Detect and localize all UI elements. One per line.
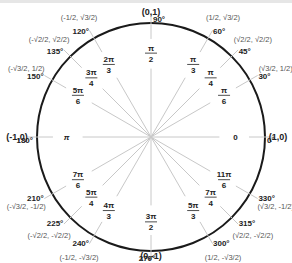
svg-text:(-√3/2, 1/2): (-√3/2, 1/2)	[8, 64, 45, 73]
svg-text:5π: 5π	[73, 86, 84, 95]
radian-label-45: π4	[205, 68, 217, 88]
radian-label-225: 5π4	[85, 188, 97, 208]
radian-label-150: 5π6	[72, 86, 84, 106]
radian-label-210: 7π6	[72, 170, 84, 190]
coordinate-label-135: (-√2/2, √2/2)	[29, 35, 70, 44]
svg-text:(-1/2, -√3/2): (-1/2, -√3/2)	[59, 253, 99, 262]
svg-text:4: 4	[208, 199, 213, 208]
radian-label-135: 3π4	[85, 68, 97, 88]
degree-label-225: 225°	[47, 219, 64, 228]
svg-text:7π: 7π	[73, 170, 84, 179]
svg-text:2π: 2π	[104, 55, 115, 64]
coordinate-label-150: (-√3/2, 1/2)	[8, 64, 45, 73]
svg-text:(1/2, -√3/2): (1/2, -√3/2)	[205, 253, 242, 262]
svg-text:(-1/2, √3/2): (-1/2, √3/2)	[61, 13, 98, 22]
tick-240	[89, 222, 102, 244]
svg-text:(-√2/2, √2/2): (-√2/2, √2/2)	[29, 35, 70, 44]
coordinate-label-300: (1/2, -√3/2)	[205, 253, 242, 262]
svg-text:11π: 11π	[217, 170, 232, 179]
coordinate-label-210: (-√3/2, -1/2)	[7, 202, 47, 211]
tick-330	[236, 186, 258, 199]
radian-label-60: π3	[187, 55, 199, 75]
tick-45	[220, 50, 238, 68]
tick-300	[200, 222, 213, 244]
svg-text:3: 3	[191, 212, 196, 221]
svg-text:(1/2, √3/2): (1/2, √3/2)	[206, 13, 241, 22]
coordinate-label-120: (-1/2, √3/2)	[61, 13, 98, 22]
svg-text:3: 3	[191, 66, 196, 75]
svg-text:2: 2	[149, 223, 154, 232]
svg-text:2: 2	[149, 55, 154, 64]
svg-text:3π: 3π	[146, 212, 157, 221]
coordinate-label-45: (√2/2, √2/2)	[234, 35, 273, 44]
radian-label-180: π	[64, 133, 70, 142]
radian-label-270: 3π2	[145, 212, 157, 232]
degree-label-135: 135°	[47, 47, 64, 56]
svg-text:(√2/2, √2/2): (√2/2, √2/2)	[234, 35, 273, 44]
svg-text:π: π	[221, 86, 227, 95]
svg-text:π: π	[64, 133, 70, 142]
axis-point-0neg1: (0,-1)	[140, 251, 162, 261]
axis-point-10: (1,0)	[269, 132, 288, 142]
tick-225	[64, 206, 82, 224]
tick-30	[236, 75, 258, 88]
coordinate-label-315: (√2/2, -√2/2)	[232, 231, 273, 240]
svg-text:4: 4	[89, 199, 94, 208]
svg-text:(-√3/2, -1/2): (-√3/2, -1/2)	[7, 202, 47, 211]
svg-text:5π: 5π	[188, 201, 199, 210]
svg-text:7π: 7π	[205, 188, 216, 197]
tick-120	[89, 30, 102, 52]
svg-text:3π: 3π	[86, 68, 97, 77]
svg-text:3: 3	[107, 212, 112, 221]
svg-text:6: 6	[222, 181, 227, 190]
degree-label-300: 300°	[213, 239, 230, 248]
svg-text:π: π	[148, 44, 154, 53]
coordinate-label-330: (√3/2, -1/2)	[257, 202, 292, 211]
tick-210	[44, 186, 66, 199]
svg-text:(√2/2, -√2/2): (√2/2, -√2/2)	[232, 231, 273, 240]
svg-text:6: 6	[76, 97, 81, 106]
degree-label-30: 30°	[258, 72, 270, 81]
tick-315	[220, 206, 238, 224]
svg-text:0: 0	[233, 133, 238, 142]
degree-label-240: 240°	[72, 239, 89, 248]
degree-label-45: 45°	[239, 47, 251, 56]
degree-label-120: 120°	[72, 27, 89, 36]
radian-label-315: 7π4	[205, 188, 217, 208]
svg-text:(√3/2, -1/2): (√3/2, -1/2)	[257, 202, 292, 211]
radian-label-330: 11π6	[217, 170, 232, 190]
coordinate-label-60: (1/2, √3/2)	[206, 13, 241, 22]
tick-150	[44, 75, 66, 88]
tick-60	[200, 30, 213, 52]
svg-text:6: 6	[222, 97, 227, 106]
degree-label-150: 150°	[27, 72, 44, 81]
coordinate-label-30: (√3/2, 1/2)	[259, 64, 292, 73]
coordinate-label-225: (-√2/2, -√2/2)	[28, 231, 72, 240]
svg-text:5π: 5π	[86, 188, 97, 197]
svg-text:(√3/2, 1/2): (√3/2, 1/2)	[259, 64, 292, 73]
radian-label-120: 2π3	[103, 55, 115, 75]
radian-label-0: 0	[233, 133, 238, 142]
radian-label-300: 5π3	[187, 201, 199, 221]
radian-label-240: 4π3	[103, 201, 115, 221]
svg-text:4: 4	[208, 79, 213, 88]
radian-label-90: π2	[145, 44, 157, 64]
svg-text:6: 6	[76, 181, 81, 190]
svg-text:4: 4	[89, 79, 94, 88]
svg-text:(-√2/2, -√2/2): (-√2/2, -√2/2)	[28, 231, 72, 240]
angle-spokes	[83, 69, 220, 206]
degree-label-60: 60°	[213, 27, 225, 36]
radian-label-30: π6	[218, 86, 230, 106]
axis-point-neg10: (-1,0)	[6, 132, 28, 142]
svg-text:4π: 4π	[104, 201, 115, 210]
svg-text:π: π	[190, 55, 196, 64]
tick-135	[64, 50, 82, 68]
svg-text:π: π	[208, 68, 214, 77]
axis-point-01: (0,1)	[142, 7, 161, 17]
degree-label-315: 315°	[239, 219, 256, 228]
svg-text:3: 3	[107, 66, 112, 75]
unit-circle-diagram: 00°π630°(√3/2, 1/2)π445°(√2/2, √2/2)π360…	[0, 0, 292, 263]
coordinate-label-240: (-1/2, -√3/2)	[59, 253, 99, 262]
